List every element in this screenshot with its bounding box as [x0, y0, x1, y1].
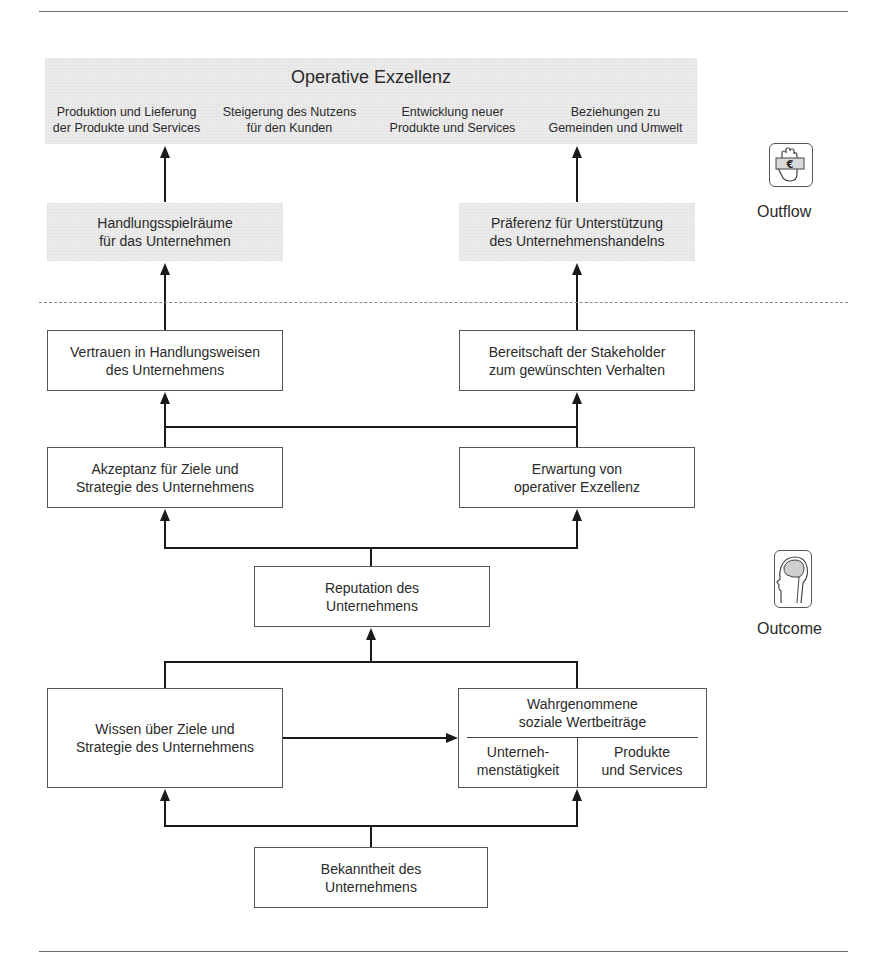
latitude-box-text: Handlungsspielräume für das Unternehmen	[47, 214, 283, 250]
top-rule	[39, 11, 848, 12]
arrow-up-icon	[366, 628, 376, 640]
connector-line	[164, 661, 578, 663]
section-separator	[39, 302, 848, 303]
connector-line	[576, 157, 578, 202]
arrow-up-icon	[160, 146, 170, 158]
connector-line	[283, 737, 448, 739]
arrow-up-icon	[160, 392, 170, 404]
perceived-products-services: Produkte und Services	[578, 743, 706, 779]
perceived-value-box: Wahrgenommene soziale Wertbeiträge Unter…	[458, 688, 707, 788]
connector-line	[370, 639, 372, 663]
svg-text:€: €	[786, 159, 794, 170]
connector-line	[370, 825, 372, 847]
arrow-up-icon	[572, 146, 582, 158]
connector-line	[164, 520, 166, 549]
awareness-box: Bekanntheit des Unternehmens	[254, 847, 488, 908]
operative-excellence-title: Operative Exzellenz	[45, 66, 697, 88]
excellence-item-customer-value: Steigerung des Nutzens für den Kunden	[208, 104, 371, 136]
connector-line	[164, 157, 166, 202]
connector-line	[164, 661, 166, 688]
connector-line	[576, 800, 578, 827]
arrow-up-icon	[572, 509, 582, 521]
outcome-label: Outcome	[757, 620, 822, 638]
connector-line	[164, 800, 166, 827]
arrow-right-icon	[446, 733, 458, 743]
reputation-box: Reputation des Unternehmens	[254, 566, 490, 627]
acceptance-box: Akzeptanz für Ziele und Strategie des Un…	[47, 447, 283, 508]
arrow-up-icon	[572, 392, 582, 404]
preference-box-text: Präferenz für Unterstützung des Unterneh…	[459, 214, 695, 250]
hand-euro-icon: €	[769, 143, 813, 187]
outflow-label: Outflow	[757, 203, 811, 221]
trust-box: Vertrauen in Handlungsweisen des Unterne…	[47, 330, 283, 391]
arrow-up-icon	[572, 263, 582, 275]
connector-line	[370, 547, 372, 566]
perceived-divider-horizontal	[467, 737, 698, 738]
connector-line	[576, 520, 578, 549]
excellence-item-community: Beziehungen zu Gemeinden und Umwelt	[534, 104, 697, 136]
knowledge-box: Wissen über Ziele und Strategie des Unte…	[47, 688, 283, 788]
connector-line	[576, 661, 578, 688]
connector-line	[164, 426, 578, 428]
arrow-up-icon	[572, 789, 582, 801]
arrow-up-icon	[160, 509, 170, 521]
arrow-up-icon	[160, 789, 170, 801]
perceived-company-activity: Unterneh- menstätigkeit	[459, 743, 577, 779]
excellence-item-production: Produktion und Lieferung der Produkte un…	[45, 104, 208, 136]
excellence-item-innovation: Entwicklung neuer Produkte und Services	[371, 104, 534, 136]
readiness-box: Bereitschaft der Stakeholder zum gewünsc…	[459, 330, 695, 391]
expectation-box: Erwartung von operativer Exzellenz	[459, 447, 695, 508]
arrow-up-icon	[160, 263, 170, 275]
bottom-rule	[39, 951, 848, 952]
head-brain-icon	[774, 550, 812, 608]
